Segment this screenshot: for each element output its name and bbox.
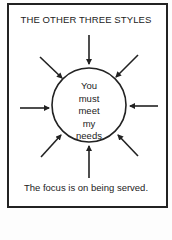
center-line: must bbox=[59, 93, 119, 106]
arrow-top-left bbox=[40, 57, 62, 78]
center-line: needs bbox=[59, 130, 119, 143]
arrow-top-right bbox=[116, 55, 138, 77]
center-line: meet bbox=[59, 105, 119, 118]
arrow-bottom-right bbox=[118, 135, 138, 156]
center-line: my bbox=[59, 118, 119, 131]
diagram-caption: The focus is on being served. bbox=[0, 182, 172, 193]
arrow-bottom-left bbox=[41, 135, 61, 157]
center-message: You must meet my needs bbox=[59, 80, 119, 143]
center-line: You bbox=[59, 80, 119, 93]
